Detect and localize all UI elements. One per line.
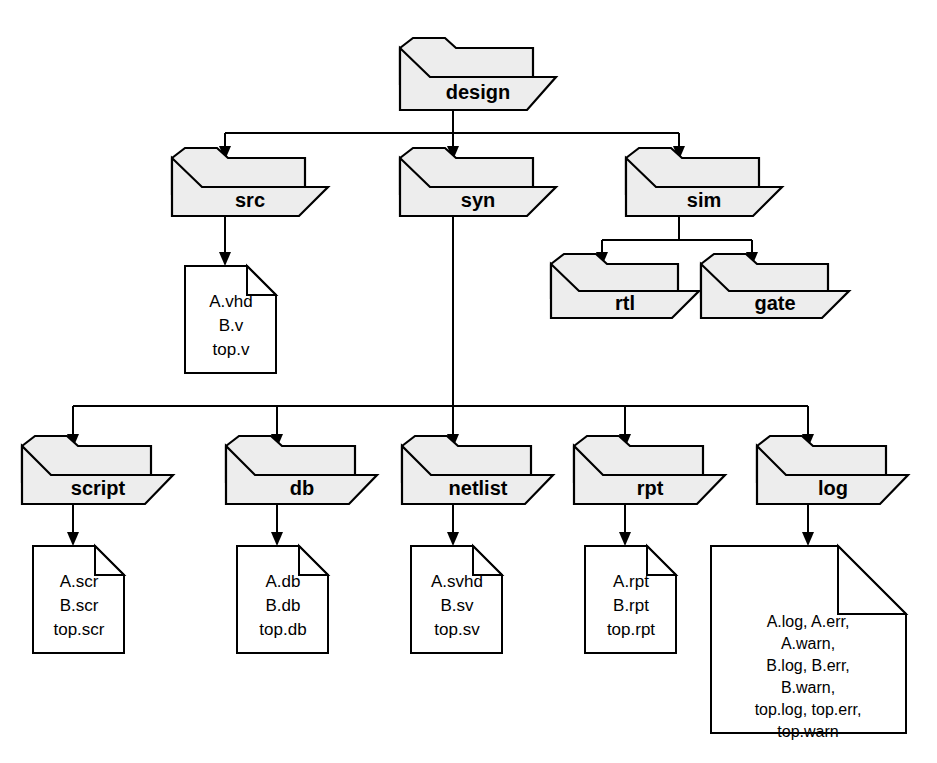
file-line: B.log, B.err, xyxy=(766,657,850,674)
file-line: A.vhd xyxy=(209,292,252,311)
file-line: B.rpt xyxy=(613,596,649,615)
file-node-log-files[interactable]: A.log, A.err, A.warn, B.log, B.err, B.wa… xyxy=(711,546,906,740)
file-line: A.log, A.err, xyxy=(767,613,850,630)
folder-label-netlist: netlist xyxy=(449,477,508,499)
folder-label-sim: sim xyxy=(687,189,721,211)
file-fold-corner-netlist-files xyxy=(473,546,502,575)
file-line: A.db xyxy=(266,572,301,591)
arrowhead-log-files xyxy=(802,532,814,546)
folder-label-rtl: rtl xyxy=(615,292,635,314)
folder-label-src: src xyxy=(235,189,265,211)
folder-node-design[interactable]: design xyxy=(400,38,556,110)
file-line: A.warn, xyxy=(781,635,835,652)
file-node-netlist-files[interactable]: A.svhd B.sv top.sv xyxy=(411,546,502,653)
tree-svg-canvas: design src syn sim rtl gate script xyxy=(0,0,937,763)
file-fold-corner-log-files xyxy=(838,546,906,614)
folder-node-log[interactable]: log xyxy=(757,436,908,504)
file-line: A.svhd xyxy=(431,572,483,591)
folder-node-script[interactable]: script xyxy=(22,436,173,504)
file-line: top.sv xyxy=(434,620,480,639)
arrowhead-db-files xyxy=(271,532,283,546)
file-line: B.db xyxy=(266,596,301,615)
file-line: top.v xyxy=(213,340,250,359)
folder-node-rpt[interactable]: rpt xyxy=(574,436,725,504)
file-line: B.v xyxy=(219,316,244,335)
file-line: top.db xyxy=(259,620,306,639)
file-node-src-files[interactable]: A.vhd B.v top.v xyxy=(185,266,276,373)
arrowhead-src-files xyxy=(219,252,231,266)
folder-node-rtl[interactable]: rtl xyxy=(551,254,699,318)
file-node-script-files[interactable]: A.scr B.scr top.scr xyxy=(33,546,124,653)
folder-label-rpt: rpt xyxy=(637,477,664,499)
folder-node-db[interactable]: db xyxy=(226,436,377,504)
folder-label-syn: syn xyxy=(461,189,495,211)
file-line: top.warn xyxy=(777,723,838,740)
file-node-rpt-files[interactable]: A.rpt B.rpt top.rpt xyxy=(585,546,676,653)
file-line: B.scr xyxy=(60,596,99,615)
folder-node-syn[interactable]: syn xyxy=(400,148,556,216)
file-fold-corner-db-files xyxy=(299,546,328,575)
folder-label-log: log xyxy=(818,477,848,499)
file-line: top.log, top.err, xyxy=(755,701,862,718)
folder-node-sim[interactable]: sim xyxy=(626,148,782,216)
folder-label-script: script xyxy=(71,477,126,499)
arrowhead-rpt-files xyxy=(619,532,631,546)
folder-node-src[interactable]: src xyxy=(172,148,328,216)
folder-node-netlist[interactable]: netlist xyxy=(402,436,553,504)
file-node-db-files[interactable]: A.db B.db top.db xyxy=(237,546,328,653)
arrowhead-script-files xyxy=(67,532,79,546)
file-line: A.rpt xyxy=(613,572,649,591)
directory-tree-diagram: design src syn sim rtl gate script xyxy=(0,0,937,763)
file-fold-corner-rpt-files xyxy=(647,546,676,575)
file-fold-corner-src-files xyxy=(247,266,276,295)
file-line: top.scr xyxy=(53,620,104,639)
arrowhead-netlist-files xyxy=(447,532,459,546)
folder-label-db: db xyxy=(290,477,314,499)
folder-node-gate[interactable]: gate xyxy=(701,254,849,318)
folder-label-gate: gate xyxy=(754,292,795,314)
file-line: B.sv xyxy=(440,596,474,615)
file-line: B.warn, xyxy=(781,679,835,696)
folder-label-design: design xyxy=(446,81,510,103)
file-line: A.scr xyxy=(60,572,99,591)
file-line: top.rpt xyxy=(607,620,655,639)
file-fold-corner-script-files xyxy=(95,546,124,575)
